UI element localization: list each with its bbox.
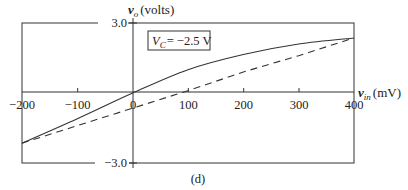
x-tick-label: 400 xyxy=(345,98,364,112)
x-tick-label: 100 xyxy=(179,98,198,112)
chart: −200 −100 0 100 200 300 400 3.0 −3.0 vo(… xyxy=(0,0,408,190)
panel-label: (d) xyxy=(191,172,206,186)
x-tick-label: −200 xyxy=(9,98,35,112)
x-axis-label: vin(mV) xyxy=(358,85,401,102)
x-tick-label: 200 xyxy=(234,98,253,112)
x-tick-label: 300 xyxy=(290,98,309,112)
x-tick-label: 0 xyxy=(130,98,136,112)
x-tick-label: −100 xyxy=(65,98,91,112)
dashed-curve xyxy=(22,38,354,143)
x-tick-labels: −200 −100 0 100 200 300 400 xyxy=(9,98,363,112)
y-tick-label-max: 3.0 xyxy=(111,16,127,30)
y-tick-label-min: −3.0 xyxy=(104,156,127,170)
y-axis-label: vo(volts) xyxy=(128,2,174,19)
